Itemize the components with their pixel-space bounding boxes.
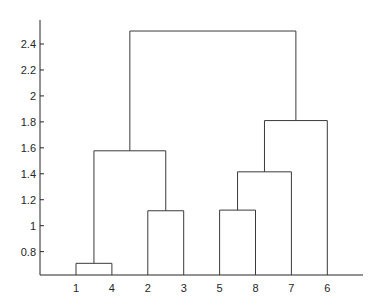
y-axis-ticks: 0.811.21.41.61.822.22.4 (21, 38, 44, 258)
x-tick-label: 2 (145, 282, 151, 294)
y-tick-label: 1 (30, 220, 36, 232)
dendrogram-link (130, 31, 296, 151)
y-tick-label: 2.2 (21, 64, 36, 76)
x-tick-label: 3 (181, 282, 187, 294)
dendrogram-link (220, 210, 256, 275)
x-axis-ticks: 14235876 (73, 282, 330, 294)
dendrogram-chart: 0.811.21.41.61.822.22.4 14235876 (0, 0, 382, 305)
dendrogram-link (76, 263, 112, 275)
y-tick-label: 2.4 (21, 38, 36, 50)
x-tick-label: 4 (109, 282, 115, 294)
dendrogram-link (148, 211, 184, 275)
x-tick-label: 5 (217, 282, 223, 294)
x-tick-label: 1 (73, 282, 79, 294)
y-tick-label: 1.6 (21, 142, 36, 154)
y-tick-label: 1.2 (21, 194, 36, 206)
dendrogram-links (76, 31, 327, 275)
x-tick-label: 7 (288, 282, 294, 294)
axes (40, 20, 363, 275)
dendrogram-link (94, 151, 166, 264)
y-tick-label: 1.8 (21, 116, 36, 128)
x-tick-label: 6 (324, 282, 330, 294)
dendrogram-link (264, 121, 327, 275)
y-tick-label: 2 (30, 90, 36, 102)
y-tick-label: 1.4 (21, 168, 36, 180)
x-tick-label: 8 (252, 282, 258, 294)
dendrogram-link (238, 172, 292, 275)
y-tick-label: 0.8 (21, 246, 36, 258)
